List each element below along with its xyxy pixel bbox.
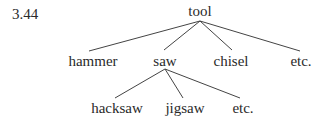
- node-saw: saw: [153, 54, 176, 69]
- edge-tool-hammer: [89, 21, 200, 51]
- node-chisel: chisel: [214, 54, 249, 69]
- node-etc-level1: etc.: [290, 54, 311, 69]
- node-root: tool: [188, 4, 211, 19]
- node-hammer: hammer: [68, 54, 117, 69]
- edge-saw-etc: [165, 69, 240, 98]
- figure-number: 3.44: [12, 7, 38, 22]
- node-jigsaw: jigsaw: [165, 101, 204, 116]
- node-etc-level2: etc.: [232, 101, 253, 116]
- edge-tool-etc: [200, 21, 300, 51]
- node-hacksaw: hacksaw: [91, 101, 143, 116]
- edge-saw-hacksaw: [115, 69, 165, 98]
- tree-diagram: 3.44 tool hammer saw chisel etc. hacksaw…: [0, 0, 321, 121]
- edge-saw-jigsaw: [165, 69, 183, 98]
